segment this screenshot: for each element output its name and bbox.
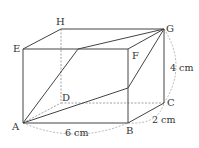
vertex-label-H: H [56, 17, 65, 27]
dimension-label-CG: 4 cm [170, 63, 193, 73]
edge-FG [128, 29, 164, 49]
path-A-P1 [23, 49, 78, 123]
vertex-label-G: G [166, 24, 174, 34]
edge-AD [23, 103, 61, 123]
vertex-label-F: F [132, 51, 139, 61]
vertex-label-E: E [13, 44, 20, 54]
cuboid-diagram: H G E F D C A B 6 cm 2 cm 4 cm [0, 0, 199, 148]
edge-EH [23, 29, 61, 49]
vertex-label-D: D [62, 93, 70, 103]
dimension-label-AB: 6 cm [65, 128, 88, 138]
path-A-P2 [23, 88, 128, 123]
path-P1-G [78, 29, 164, 49]
vertex-label-C: C [167, 98, 175, 108]
vertex-label-A: A [12, 122, 19, 132]
vertex-label-B: B [126, 126, 133, 136]
dimension-label-BC: 2 cm [152, 115, 175, 125]
